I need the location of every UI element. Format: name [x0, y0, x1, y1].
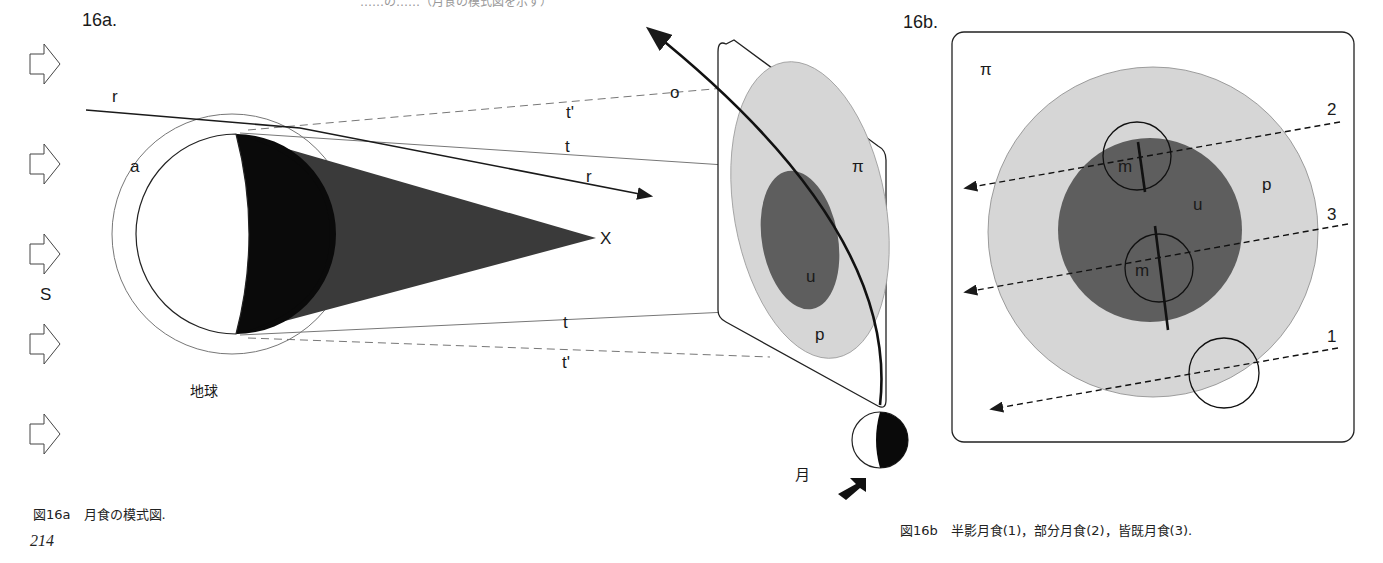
caption-16b: 図16b 半影月食(1)，部分月食(2)，皆既月食(3). — [900, 520, 1192, 539]
apex-label: X — [600, 229, 611, 248]
tangent-label-tprime-bottom: t' — [562, 353, 570, 372]
earth-label: 地球 — [190, 383, 218, 399]
moon-label: 月 — [795, 466, 810, 483]
umbra-label-16b: u — [1193, 195, 1202, 214]
tangent-label-tprime-top: t' — [566, 103, 574, 122]
moon-icon — [852, 412, 908, 468]
caption-16a: 図16a 月食の模式図. — [33, 504, 166, 523]
sunlight-arrow-icon — [30, 324, 60, 364]
moon-label-m2: m — [1118, 157, 1132, 176]
sunlight-arrow-icon — [30, 414, 60, 454]
moon-label-m3: m — [1135, 261, 1149, 280]
sun-label: S — [40, 285, 51, 304]
tangent-label-t-bottom: t — [563, 313, 568, 332]
ray-label-r1: r — [112, 87, 118, 106]
penumbra-label-16b: p — [1262, 175, 1271, 194]
path-label-1: 1 — [1327, 327, 1336, 346]
umbra-label-16a: u — [806, 267, 815, 286]
plane-label-16b: π — [980, 60, 992, 79]
plane-label-16a: π — [852, 157, 864, 176]
sunlight-arrow-icon — [30, 234, 60, 274]
sunlight-arrow-icon — [30, 44, 60, 84]
sunlight-arrows — [30, 44, 60, 454]
earth-day-side — [136, 134, 249, 334]
atmosphere-label: a — [130, 157, 140, 176]
page-number: 214 — [30, 532, 54, 550]
path-label-2: 2 — [1327, 100, 1336, 119]
eclipse-figure: 16a. S a r r t t t' t' X o π u p 地球 月 16… — [0, 0, 1383, 563]
path-label-3: 3 — [1327, 205, 1336, 224]
fig16b-label: 16b. — [903, 12, 938, 32]
umbra-disk — [1058, 138, 1242, 322]
tangent-label-t-top: t — [565, 137, 570, 156]
sunlight-arrow-icon — [30, 144, 60, 184]
fig16a-label: 16a. — [82, 10, 117, 30]
moon-motion-arrow-icon — [838, 478, 866, 500]
orbit-label: o — [670, 83, 679, 102]
penumbra-label-16a: p — [815, 325, 824, 344]
ray-label-r2: r — [586, 167, 592, 186]
